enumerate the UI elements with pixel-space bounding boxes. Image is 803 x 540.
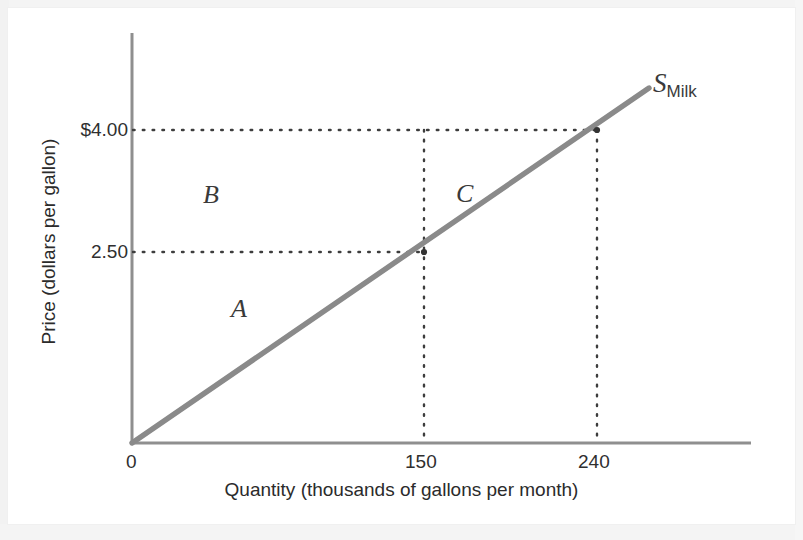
curve-label-symbol: S <box>653 68 667 98</box>
region-label-b: B <box>203 182 219 208</box>
region-label-a: A <box>231 296 247 322</box>
supply-curve-figure: $4.00 2.50 0 150 240 Quantity (thousands… <box>0 0 803 540</box>
curve-label-subscript: Milk <box>667 82 697 101</box>
supply-curve-smilk <box>132 88 649 443</box>
x-axis-title: Quantity (thousands of gallons per month… <box>0 480 803 499</box>
point-marker-150-250 <box>421 249 427 255</box>
x-axis-tick-0: 0 <box>126 452 137 471</box>
y-axis-title: Price (dollars per gallon) <box>39 82 58 402</box>
x-axis-tick-150: 150 <box>405 452 437 471</box>
region-label-c: C <box>456 181 473 207</box>
point-marker-240-400 <box>594 127 600 133</box>
x-axis-tick-240: 240 <box>578 452 610 471</box>
supply-curve-label: SMilk <box>653 70 697 100</box>
y-axis-tick-250: 2.50 <box>91 242 128 261</box>
y-axis-tick-400: $4.00 <box>80 120 128 139</box>
